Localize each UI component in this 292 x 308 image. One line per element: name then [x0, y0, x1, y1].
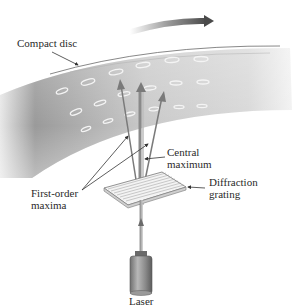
compact-disc-surface — [0, 46, 292, 178]
label-diffraction-grating-2: grating — [209, 188, 240, 200]
label-first-order-1: First-order — [31, 187, 78, 199]
diffraction-grating — [104, 172, 186, 208]
label-central-maximum-2: maximum — [167, 158, 212, 170]
incident-laser-beam — [138, 200, 144, 255]
label-central-maximum-1: Central — [167, 146, 199, 158]
diagram: Compact disc Central maximum First-order… — [0, 0, 292, 308]
rotation-arrow-icon — [130, 15, 214, 32]
label-first-order-2: maxima — [31, 199, 66, 211]
laser-device — [130, 251, 152, 296]
label-laser: Laser — [129, 295, 153, 307]
label-diffraction-grating-1: Diffraction — [209, 176, 258, 188]
label-compact-disc: Compact disc — [17, 37, 77, 49]
